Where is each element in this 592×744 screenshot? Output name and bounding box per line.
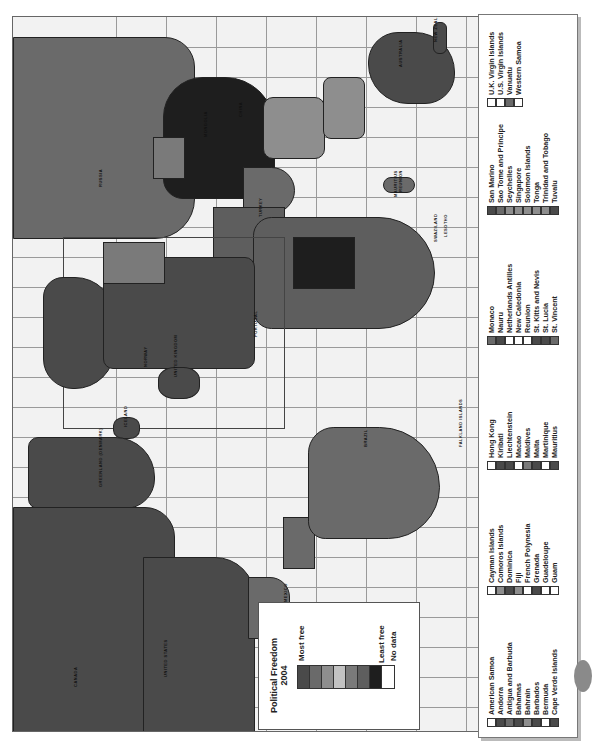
country-label: NORWAY xyxy=(143,346,148,367)
country-name: Singapore xyxy=(514,168,523,203)
country-list-item: Sao Tome and Principe xyxy=(496,124,505,215)
country-label: REUNION xyxy=(398,170,403,192)
land-eastern-europe xyxy=(103,242,165,284)
country-swatch xyxy=(550,206,559,215)
country-swatch xyxy=(487,336,496,345)
country-name: Sao Tome and Principe xyxy=(496,124,505,203)
land-indonesia xyxy=(323,77,365,139)
country-swatch xyxy=(541,336,550,345)
country-list-item: French Polynesia xyxy=(523,523,532,595)
land-africa-dark xyxy=(293,237,355,289)
country-list-item: St. Lucia xyxy=(541,303,550,345)
country-label: RUSSIA xyxy=(98,169,103,187)
country-name: St. Kitts and Nevis xyxy=(532,270,541,333)
country-swatch xyxy=(523,586,532,595)
country-label: CHINA xyxy=(238,102,243,117)
country-list-item: Martinique xyxy=(541,422,550,470)
country-name: Kiribati xyxy=(496,433,505,458)
legend: Political Freedom 2004 Most free Least f… xyxy=(258,602,420,730)
country-label: PORTUGAL xyxy=(253,311,258,337)
country-name: Tuvalu xyxy=(550,180,559,203)
country-swatch xyxy=(487,461,496,470)
country-list-item: Cape Verde Islands xyxy=(550,649,559,727)
country-swatch xyxy=(550,461,559,470)
legend-title-line1: Political Freedom xyxy=(269,638,279,713)
country-list-item: Bahrain xyxy=(523,688,532,727)
country-name: Monaco xyxy=(487,306,496,333)
country-name: Cape Verde Islands xyxy=(550,649,559,715)
land-greenland xyxy=(28,437,155,509)
country-name: Bahamas xyxy=(514,683,523,715)
country-list-item: Grenada xyxy=(532,554,541,595)
country-label: LESOTHO xyxy=(443,214,448,237)
country-list-item: Maldives xyxy=(523,428,532,470)
country-name: Tonga xyxy=(532,182,541,203)
country-swatch xyxy=(496,718,505,727)
country-list-item: Monaco xyxy=(487,306,496,345)
country-list-item: Seychelles xyxy=(505,166,514,215)
scroll-handle[interactable] xyxy=(574,660,592,692)
country-swatch xyxy=(505,586,514,595)
country-list-item: Dominica xyxy=(505,551,514,595)
country-list-item: St. Vincent xyxy=(550,296,559,345)
country-label: MEXICO xyxy=(283,583,288,602)
country-name: Maldives xyxy=(523,428,532,458)
country-name: Nauru xyxy=(496,312,505,333)
country-swatch xyxy=(496,336,505,345)
country-swatch xyxy=(496,586,505,595)
country-swatch xyxy=(487,718,496,727)
country-list-item: Vanuatu xyxy=(505,67,514,107)
country-name: Grenada xyxy=(532,554,541,583)
country-list-item: Macao xyxy=(514,436,523,470)
country-label: FALKLAND ISLANDS xyxy=(458,399,463,447)
country-swatch xyxy=(505,336,514,345)
country-swatch xyxy=(523,336,532,345)
country-label: ICELAND xyxy=(123,406,128,427)
country-list-item: American Samoa xyxy=(487,657,496,727)
country-swatch xyxy=(487,98,496,107)
land-usa xyxy=(143,557,255,732)
country-list-item: Comoros Islands xyxy=(496,525,505,595)
country-swatch xyxy=(541,586,550,595)
country-list-item: Nauru xyxy=(496,312,505,345)
country-swatch xyxy=(523,461,532,470)
country-list-item: New Caledonia xyxy=(514,282,523,345)
country-swatch xyxy=(523,718,532,727)
country-swatch xyxy=(505,461,514,470)
country-name: Comoros Islands xyxy=(496,525,505,583)
country-name: Antigua and Barbuda xyxy=(505,642,514,715)
country-swatch xyxy=(550,586,559,595)
country-list-item: U.K. Virgin Islands xyxy=(487,32,496,107)
country-name: St. Lucia xyxy=(541,303,550,333)
country-list-item: Trinidad and Tobago xyxy=(541,133,550,215)
country-name: St. Vincent xyxy=(550,296,559,333)
country-list-item: Bermuda xyxy=(541,684,550,727)
country-name: Cayman Islands xyxy=(487,528,496,583)
country-label: CANADA xyxy=(73,667,78,687)
small-countries-list: American SamoaAndorraAntigua and Barbuda… xyxy=(478,14,578,738)
country-list-item: Guadeloupe xyxy=(541,541,550,595)
country-list-item: Hong Kong xyxy=(487,419,496,470)
country-name: Mauritius xyxy=(550,426,559,458)
country-name: Fiji xyxy=(514,573,523,583)
country-swatch xyxy=(505,98,514,107)
country-list-item: Fiji xyxy=(514,573,523,595)
land-uk xyxy=(158,367,200,399)
country-swatch xyxy=(541,718,550,727)
legend-least-free: Least free xyxy=(377,625,386,663)
country-name: Guadeloupe xyxy=(541,541,550,583)
country-swatch xyxy=(532,336,541,345)
country-label: UNITED STATES xyxy=(163,639,168,677)
country-swatch xyxy=(496,98,505,107)
gridline xyxy=(466,17,467,731)
country-label: AUSTRALIA xyxy=(398,39,403,67)
country-swatch xyxy=(487,586,496,595)
country-swatch xyxy=(496,461,505,470)
country-label: SWAZILAND xyxy=(433,214,438,242)
country-name: Macao xyxy=(514,436,523,458)
country-swatch xyxy=(541,461,550,470)
country-swatch xyxy=(532,586,541,595)
country-name: Bahrain xyxy=(523,688,532,715)
country-list-item: Guam xyxy=(550,563,559,595)
country-list-item: Kiribati xyxy=(496,433,505,470)
